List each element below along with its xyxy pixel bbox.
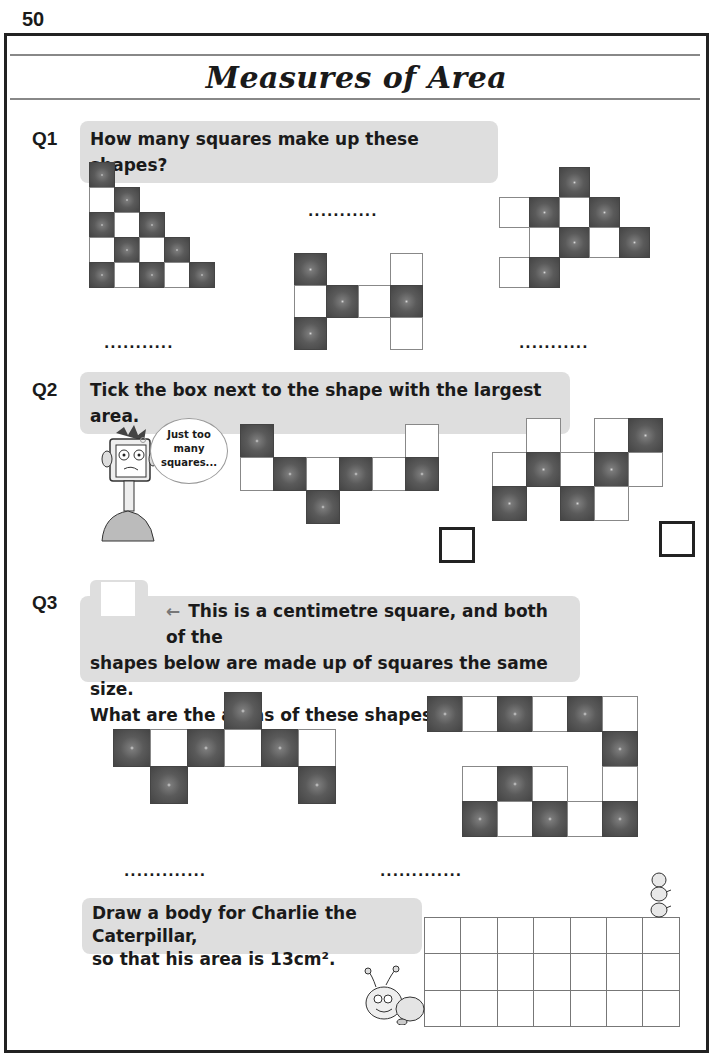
q2-label: Q2 <box>32 379 57 401</box>
shaded-square <box>89 162 115 188</box>
shaded-square <box>164 237 190 263</box>
blank-square <box>492 452 527 487</box>
blank-square <box>499 257 530 288</box>
grid-cell[interactable] <box>642 917 679 954</box>
q2-tickbox-left[interactable] <box>439 527 475 563</box>
blank-square <box>390 317 423 350</box>
shaded-square <box>114 187 140 213</box>
q1-label: Q1 <box>32 128 57 150</box>
q1-answer-b[interactable]: ........... <box>308 203 378 219</box>
grid-cell[interactable] <box>497 917 534 954</box>
blank-square <box>462 696 498 732</box>
blank-square <box>532 766 568 802</box>
shaded-square <box>619 227 650 258</box>
blank-square <box>497 801 533 837</box>
shaded-square <box>294 317 327 350</box>
shaded-square <box>559 167 590 198</box>
blank-square <box>529 227 560 258</box>
shaded-square <box>89 262 115 288</box>
shaded-square <box>114 237 140 263</box>
shaded-square <box>602 731 638 767</box>
q3-label: Q3 <box>32 592 57 614</box>
shaded-square <box>594 452 629 487</box>
shaded-square <box>390 285 423 318</box>
blank-square <box>594 486 629 521</box>
shaded-square <box>113 729 151 767</box>
blank-square <box>89 237 115 263</box>
blank-square <box>358 285 391 318</box>
shaded-square <box>529 197 560 228</box>
blank-square <box>462 766 498 802</box>
shaded-square <box>497 696 533 732</box>
page-number: 50 <box>22 8 44 31</box>
blank-square <box>532 696 568 732</box>
shaded-square <box>567 696 603 732</box>
grid-cell[interactable] <box>424 917 461 954</box>
q2-tickbox-right[interactable] <box>659 521 695 557</box>
grid-cell[interactable] <box>424 953 461 990</box>
blank-square <box>526 418 561 453</box>
blank-square <box>114 262 140 288</box>
shaded-square <box>405 457 439 491</box>
shaded-square <box>492 486 527 521</box>
blank-square <box>294 285 327 318</box>
caterpillar-tail-illustration <box>648 872 674 918</box>
shaded-square <box>294 253 327 286</box>
grid-cell[interactable] <box>606 917 643 954</box>
speech-bubble: Just too many squares... <box>150 418 228 484</box>
blank-square <box>89 187 115 213</box>
shaded-square <box>224 692 262 730</box>
grid-cell[interactable] <box>606 990 643 1027</box>
grid-cell[interactable] <box>606 953 643 990</box>
thinking-boy-illustration <box>98 425 158 543</box>
q3-prompt: ←This is a centimetre square, and both o… <box>80 596 580 682</box>
q3-prompt-line2: shapes below are made up of squares the … <box>90 650 570 702</box>
shaded-square <box>326 285 359 318</box>
grid-cell[interactable] <box>642 990 679 1027</box>
shaded-square <box>529 257 560 288</box>
blank-square <box>298 729 336 767</box>
q1-answer-a[interactable]: ........... <box>104 335 174 351</box>
shaded-square <box>532 801 568 837</box>
blank-square <box>405 424 439 458</box>
grid-cell[interactable] <box>642 953 679 990</box>
grid-cell[interactable] <box>497 953 534 990</box>
blank-square <box>150 729 188 767</box>
q3-answer-left[interactable]: ............. <box>124 863 206 879</box>
shaded-square <box>240 424 274 458</box>
grid-cell[interactable] <box>570 953 607 990</box>
blank-square <box>594 418 629 453</box>
blank-square <box>114 212 140 238</box>
q3-answer-right[interactable]: ............. <box>380 863 462 879</box>
grid-cell[interactable] <box>533 990 570 1027</box>
grid-cell[interactable] <box>570 990 607 1027</box>
grid-cell[interactable] <box>424 990 461 1027</box>
blank-square <box>589 227 620 258</box>
caterpillar-head-illustration <box>362 965 426 1025</box>
grid-cell[interactable] <box>533 953 570 990</box>
blank-square <box>602 766 638 802</box>
q1-prompt: How many squares make up these shapes? <box>80 121 498 183</box>
blank-square <box>240 457 274 491</box>
grid-cell[interactable] <box>533 917 570 954</box>
shaded-square <box>560 486 595 521</box>
blank-square <box>224 729 262 767</box>
shaded-square <box>139 212 165 238</box>
grid-cell[interactable] <box>460 917 497 954</box>
caterpillar-prompt-line1: Draw a body for Charlie the Caterpillar, <box>92 902 412 948</box>
shaded-square <box>559 227 590 258</box>
shaded-square <box>150 766 188 804</box>
shaded-square <box>189 262 215 288</box>
blank-square <box>306 457 340 491</box>
shaded-square <box>497 766 533 802</box>
shaded-square <box>306 490 340 524</box>
q1-answer-c[interactable]: ........... <box>519 335 589 351</box>
title-rule-top <box>10 54 700 56</box>
grid-cell[interactable] <box>460 953 497 990</box>
shaded-square <box>298 766 336 804</box>
grid-cell[interactable] <box>497 990 534 1027</box>
shaded-square <box>462 801 498 837</box>
grid-cell[interactable] <box>570 917 607 954</box>
blank-square <box>372 457 406 491</box>
grid-cell[interactable] <box>460 990 497 1027</box>
